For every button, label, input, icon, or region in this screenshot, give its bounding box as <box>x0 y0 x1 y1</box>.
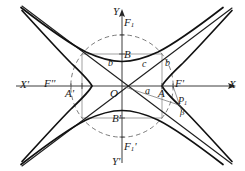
label-origin: O <box>110 88 118 99</box>
label-focus-lower-letter: F <box>124 140 131 152</box>
label-focus-upper: F1 <box>124 17 134 29</box>
label-y-axis-positive: Y <box>113 6 119 17</box>
label-focus-upper-letter: F <box>124 16 131 28</box>
label-focus-lower: F1' <box>124 141 137 153</box>
label-focus-left: F'' <box>44 78 55 89</box>
hyperbola-diagram <box>0 0 245 171</box>
label-point-p1-subscript: 1 <box>184 99 187 106</box>
label-x-axis-positive: X <box>229 79 236 90</box>
label-focus-lower-prime: ' <box>134 140 136 152</box>
label-vertex-top: B <box>124 49 131 60</box>
label-point-p1: P1 <box>178 96 187 106</box>
label-focus-right: F' <box>175 78 184 89</box>
label-y-axis-negative: Y' <box>112 156 120 167</box>
label-angle-beta: β <box>180 108 184 117</box>
label-focus-upper-subscript: 1 <box>131 21 134 28</box>
label-vertex-bottom: B' <box>112 113 121 124</box>
label-vertex-right: A <box>158 88 165 99</box>
label-semi-axis-b-right: b <box>165 58 170 68</box>
label-semi-axis-b-left: b <box>108 58 113 68</box>
label-semi-axis-c: c <box>142 59 146 69</box>
label-x-axis-negative: X' <box>20 79 29 90</box>
label-semi-axis-a: a <box>145 86 150 96</box>
label-vertex-left: A' <box>65 88 74 99</box>
